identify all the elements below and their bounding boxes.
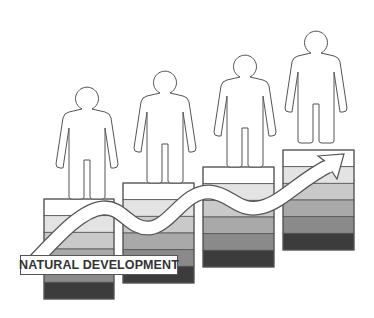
step-band xyxy=(44,282,114,299)
step-block-3 xyxy=(203,167,274,267)
step-band xyxy=(203,217,274,234)
step-band xyxy=(283,200,354,217)
step-band xyxy=(283,217,354,234)
person-icon-4 xyxy=(285,31,347,143)
natural-development-label: NATURAL DEVELOPMENT xyxy=(20,255,178,275)
step-band xyxy=(203,250,274,267)
step-band xyxy=(203,234,274,251)
natural-development-diagram: NATURAL DEVELOPMENT xyxy=(0,0,374,318)
person-icon-2 xyxy=(134,71,196,183)
person-icon-3 xyxy=(214,55,276,167)
step-band xyxy=(283,233,354,250)
step-band xyxy=(123,233,194,250)
person-icon-1 xyxy=(56,87,118,199)
step-band xyxy=(203,167,274,184)
